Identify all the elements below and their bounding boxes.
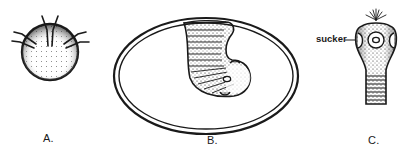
panel-b-label: B. — [207, 134, 218, 146]
sucker-callout-label: sucker — [316, 33, 347, 44]
panel-a-embryo — [12, 16, 89, 80]
panel-b-cysticercus — [114, 18, 298, 134]
rostellum-hooks-icon — [366, 9, 386, 20]
figure-canvas — [0, 0, 402, 156]
panel-c-scolex — [345, 9, 396, 104]
panel-c-label: C. — [368, 134, 379, 146]
panel-a-label: A. — [43, 132, 54, 144]
